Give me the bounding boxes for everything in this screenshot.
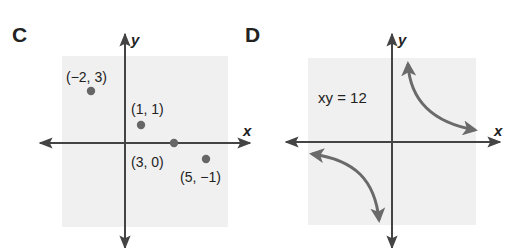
panel-d: D y x xy = 12 bbox=[245, 23, 503, 248]
point-3-0 bbox=[170, 139, 178, 147]
y-axis-label-c: y bbox=[130, 31, 140, 48]
y-axis-label-d: y bbox=[397, 31, 407, 48]
x-axis-label-c: x bbox=[242, 122, 252, 139]
point-1-1 bbox=[137, 121, 145, 129]
equation-label: xy = 12 bbox=[318, 89, 367, 106]
figure-canvas: C y x (−2, 3) (1, 1) (3, 0) (5, −1) D y … bbox=[0, 0, 514, 248]
panel-c: C y x (−2, 3) (1, 1) (3, 0) (5, −1) bbox=[12, 23, 252, 248]
point-5-neg1 bbox=[202, 155, 210, 163]
point-label-5-neg1: (5, −1) bbox=[180, 169, 221, 185]
x-axis-label-d: x bbox=[493, 122, 503, 139]
point-neg2-3 bbox=[87, 87, 95, 95]
point-label-3-0: (3, 0) bbox=[131, 154, 164, 170]
panel-label-c: C bbox=[12, 23, 27, 46]
panel-label-d: D bbox=[245, 23, 260, 46]
point-label-1-1: (1, 1) bbox=[131, 101, 164, 117]
point-label-neg2-3: (−2, 3) bbox=[66, 69, 107, 85]
